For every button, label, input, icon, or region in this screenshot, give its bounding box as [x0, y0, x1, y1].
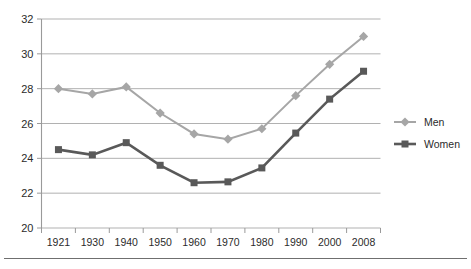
y-tick-label: 22 [21, 187, 33, 199]
x-tick-label-2008: 2008 [352, 236, 376, 248]
chart-background [0, 0, 471, 269]
x-tick-label-1930: 1930 [81, 236, 105, 248]
data-point-marker-square [258, 164, 265, 171]
line-chart: 20222426283032 1921193019401950196019701… [0, 0, 471, 269]
chart-canvas: 20222426283032 1921193019401950196019701… [0, 0, 471, 269]
y-tick-label: 24 [21, 152, 33, 164]
x-tick-label-1921: 1921 [47, 236, 71, 248]
x-tick-label-1950: 1950 [148, 236, 172, 248]
x-tick-label-1970: 1970 [216, 236, 240, 248]
data-point-marker-square [123, 139, 130, 146]
data-point-marker-square [224, 178, 231, 185]
data-point-marker-square [191, 179, 198, 186]
y-tick-label: 26 [21, 118, 33, 130]
y-tick-label: 30 [21, 48, 33, 60]
data-point-marker-square [326, 96, 333, 103]
data-point-marker-square [360, 68, 367, 75]
y-tick-label: 32 [21, 13, 33, 25]
y-tick-label: 20 [21, 222, 33, 234]
legend-label-men: Men [424, 116, 445, 128]
y-tick-label: 28 [21, 83, 33, 95]
x-tick-label-1980: 1980 [250, 236, 274, 248]
x-tick-label-2000: 2000 [318, 236, 342, 248]
data-point-marker-square [292, 130, 299, 137]
data-point-marker-square [157, 162, 164, 169]
data-point-marker-square [89, 151, 96, 158]
legend-label-women: Women [424, 138, 460, 150]
data-point-marker-square [55, 146, 62, 153]
x-tick-label-1990: 1990 [284, 236, 308, 248]
x-tick-label-1960: 1960 [182, 236, 206, 248]
x-tick-label-1940: 1940 [115, 236, 139, 248]
data-point-marker-square [402, 141, 409, 148]
